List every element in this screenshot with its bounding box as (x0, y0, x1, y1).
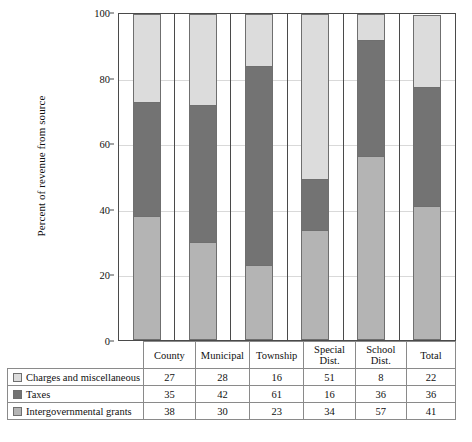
table-header: CountyMunicipalTownshipSpecial Dist.Scho… (8, 342, 456, 369)
table-cell: 16 (304, 386, 356, 403)
bar-segment-intergovernmental-grants (189, 242, 217, 340)
bar-segment-taxes (245, 66, 273, 265)
table-cell: 35 (144, 386, 196, 403)
table-cell: 22 (406, 369, 455, 386)
table-cell: 41 (406, 403, 455, 420)
table-cell: 42 (195, 386, 250, 403)
y-axis-tick-container: 020406080100 (86, 13, 114, 341)
table-column-header-school-dist: School Dist. (355, 342, 406, 369)
table-cell: 27 (144, 369, 196, 386)
bar-column-township (231, 14, 287, 340)
table-cell: 8 (355, 369, 406, 386)
table-row: Charges and miscellaneous27281651822 (8, 369, 456, 386)
y-axis-title: Percent of revenue from source (35, 56, 47, 276)
bar-segment-taxes (413, 87, 441, 205)
table-header-row: CountyMunicipalTownshipSpecial Dist.Scho… (8, 342, 456, 369)
table-cell: 61 (250, 386, 304, 403)
bar-segment-charges-and-miscellaneous (245, 14, 273, 66)
table-row: Taxes354261163636 (8, 386, 456, 403)
table-column-header-municipal: Municipal (195, 342, 250, 369)
table-cell: 51 (304, 369, 356, 386)
bar-segment-charges-and-miscellaneous (413, 15, 441, 87)
stacked-bar (133, 14, 161, 340)
bar-columns (119, 14, 455, 340)
legend-swatch-icon (13, 390, 22, 399)
legend-label-text: Taxes (26, 389, 50, 400)
table-column-header-special-dist: Special Dist. (304, 342, 356, 369)
bar-segment-intergovernmental-grants (301, 230, 329, 340)
legend-swatch-icon (13, 407, 22, 416)
stacked-bar (245, 14, 273, 340)
y-tick-mark-20 (110, 275, 114, 276)
legend-row-label: Taxes (8, 386, 144, 403)
bar-column-school-dist (344, 14, 400, 340)
stacked-bar-chart-figure: Percent of revenue from source 020406080… (0, 0, 472, 442)
y-tick-mark-100 (110, 13, 114, 14)
stacked-bar (189, 14, 217, 340)
bar-segment-charges-and-miscellaneous (357, 14, 385, 40)
legend-swatch-icon (13, 373, 22, 382)
bar-segment-intergovernmental-grants (133, 216, 161, 340)
legend-label-text: Intergovernmental grants (26, 406, 132, 417)
y-tick-label-60: 60 (100, 139, 111, 150)
bar-column-municipal (175, 14, 231, 340)
legend-row-label: Intergovernmental grants (8, 403, 144, 420)
table-cell: 38 (144, 403, 196, 420)
bar-segment-intergovernmental-grants (413, 206, 441, 340)
bar-column-total (400, 14, 455, 340)
y-tick-mark-80 (110, 78, 114, 79)
stacked-bar (413, 14, 441, 340)
table-cell: 30 (195, 403, 250, 420)
table-column-header-county: County (144, 342, 196, 369)
bar-segment-charges-and-miscellaneous (133, 14, 161, 102)
y-tick-mark-60 (110, 144, 114, 145)
bar-segment-taxes (301, 179, 329, 231)
y-tick-label-100: 100 (94, 8, 110, 19)
bar-column-special-dist (288, 14, 344, 340)
table-cell: 34 (304, 403, 356, 420)
bar-column-county (119, 14, 175, 340)
bar-segment-intergovernmental-grants (357, 156, 385, 340)
y-tick-mark-40 (110, 209, 114, 210)
y-tick-label-80: 80 (100, 73, 111, 84)
table-corner-cell (8, 342, 144, 369)
table-cell: 57 (355, 403, 406, 420)
bar-segment-charges-and-miscellaneous (189, 14, 217, 105)
table-cell: 28 (195, 369, 250, 386)
table-column-header-township: Township (250, 342, 304, 369)
data-table: CountyMunicipalTownshipSpecial Dist.Scho… (7, 341, 456, 420)
table-cell: 36 (406, 386, 455, 403)
legend-row-label: Charges and miscellaneous (8, 369, 144, 386)
bar-segment-intergovernmental-grants (245, 265, 273, 340)
table-cell: 23 (250, 403, 304, 420)
plot-area (118, 13, 456, 341)
table-row: Intergovernmental grants383023345741 (8, 403, 456, 420)
bar-segment-taxes (189, 105, 217, 242)
stacked-bar (357, 14, 385, 340)
bar-segment-charges-and-miscellaneous (301, 14, 329, 179)
table-cell: 36 (355, 386, 406, 403)
legend-label-text: Charges and miscellaneous (26, 372, 140, 383)
y-tick-label-20: 20 (100, 270, 111, 281)
table-column-header-total: Total (406, 342, 455, 369)
bar-segment-taxes (133, 102, 161, 216)
table-body: Charges and miscellaneous27281651822Taxe… (8, 369, 456, 420)
stacked-bar (301, 14, 329, 340)
bar-segment-taxes (357, 40, 385, 156)
y-tick-label-40: 40 (100, 204, 111, 215)
table-cell: 16 (250, 369, 304, 386)
